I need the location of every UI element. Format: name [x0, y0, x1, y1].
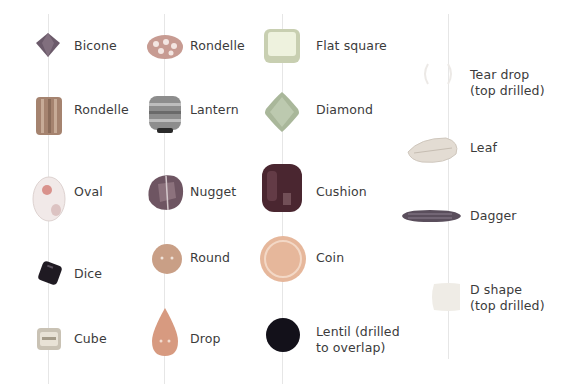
flat-square-label: Flat square — [316, 38, 387, 54]
rondelle-bead-icon — [146, 34, 184, 60]
bicone-label: Bicone — [74, 38, 117, 54]
bicone-bead-icon — [34, 31, 62, 59]
dagger-label: Dagger — [470, 208, 517, 224]
dagger-bead-icon — [400, 209, 462, 223]
cushion-bead-icon — [261, 163, 303, 213]
dice-label: Dice — [74, 266, 102, 282]
nugget-label: Nugget — [190, 184, 236, 200]
cube-bead-icon — [36, 327, 62, 351]
nugget-bead-icon — [146, 172, 186, 212]
drop-bead-icon — [150, 307, 180, 357]
d-shape-bead-icon — [430, 280, 464, 314]
coin-label: Coin — [316, 250, 344, 266]
d-shape-label: D shape (top drilled) — [470, 282, 545, 314]
round-label: Round — [190, 250, 230, 266]
round-bead-icon — [151, 243, 183, 275]
cube-label: Cube — [74, 331, 107, 347]
lantern-label: Lantern — [190, 102, 239, 118]
oval-bead-icon — [32, 176, 66, 222]
lentil-label: Lentil (drilled to overlap) — [316, 324, 400, 356]
dice-bead-icon — [37, 260, 63, 286]
drop-label: Drop — [190, 331, 220, 347]
cushion-label: Cushion — [316, 184, 367, 200]
tear-drop-bead-icon — [418, 60, 458, 100]
coin-bead-icon — [259, 235, 307, 283]
cylinder-label: Rondelle — [74, 102, 129, 118]
lentil-bead-icon — [265, 317, 301, 353]
oval-label: Oval — [74, 184, 103, 200]
flat-square-bead-icon — [263, 28, 301, 64]
lantern-bead-icon — [147, 94, 183, 134]
tear-drop-label: Tear drop (top drilled) — [470, 67, 545, 99]
cylinder-bead-icon — [35, 96, 63, 136]
rondelle-label: Rondelle — [190, 38, 245, 54]
diamond-label: Diamond — [316, 102, 373, 118]
diamond-bead-icon — [264, 91, 300, 133]
leaf-label: Leaf — [470, 140, 497, 156]
leaf-bead-icon — [406, 136, 460, 164]
